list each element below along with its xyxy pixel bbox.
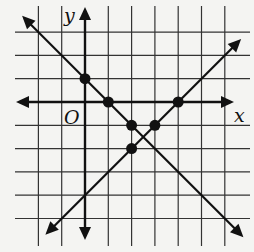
data-point	[126, 120, 137, 131]
y-axis-label: y	[63, 4, 75, 26]
origin-label: O	[64, 106, 80, 128]
x-axis-arrow-left	[16, 96, 29, 108]
data-point	[173, 97, 184, 108]
data-point	[80, 73, 91, 84]
data-point	[149, 120, 160, 131]
x-axis-arrow-right	[221, 96, 234, 108]
data-point	[126, 143, 137, 154]
x-axis-label: x	[234, 104, 245, 126]
y-axis-arrow-down	[79, 227, 91, 240]
data-point	[103, 97, 114, 108]
y-axis-arrow-up	[79, 7, 91, 20]
coordinate-plane: x y O	[0, 0, 254, 252]
